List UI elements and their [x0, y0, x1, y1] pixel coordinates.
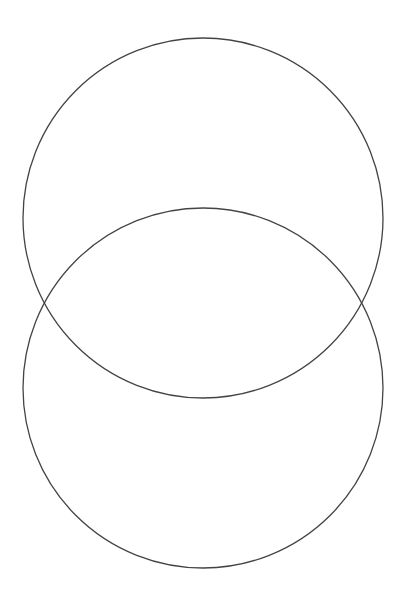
- venn-circle-bottom: [23, 208, 383, 568]
- venn-diagram: [0, 0, 406, 593]
- venn-diagram-canvas: [0, 0, 406, 593]
- venn-circle-top: [23, 38, 383, 398]
